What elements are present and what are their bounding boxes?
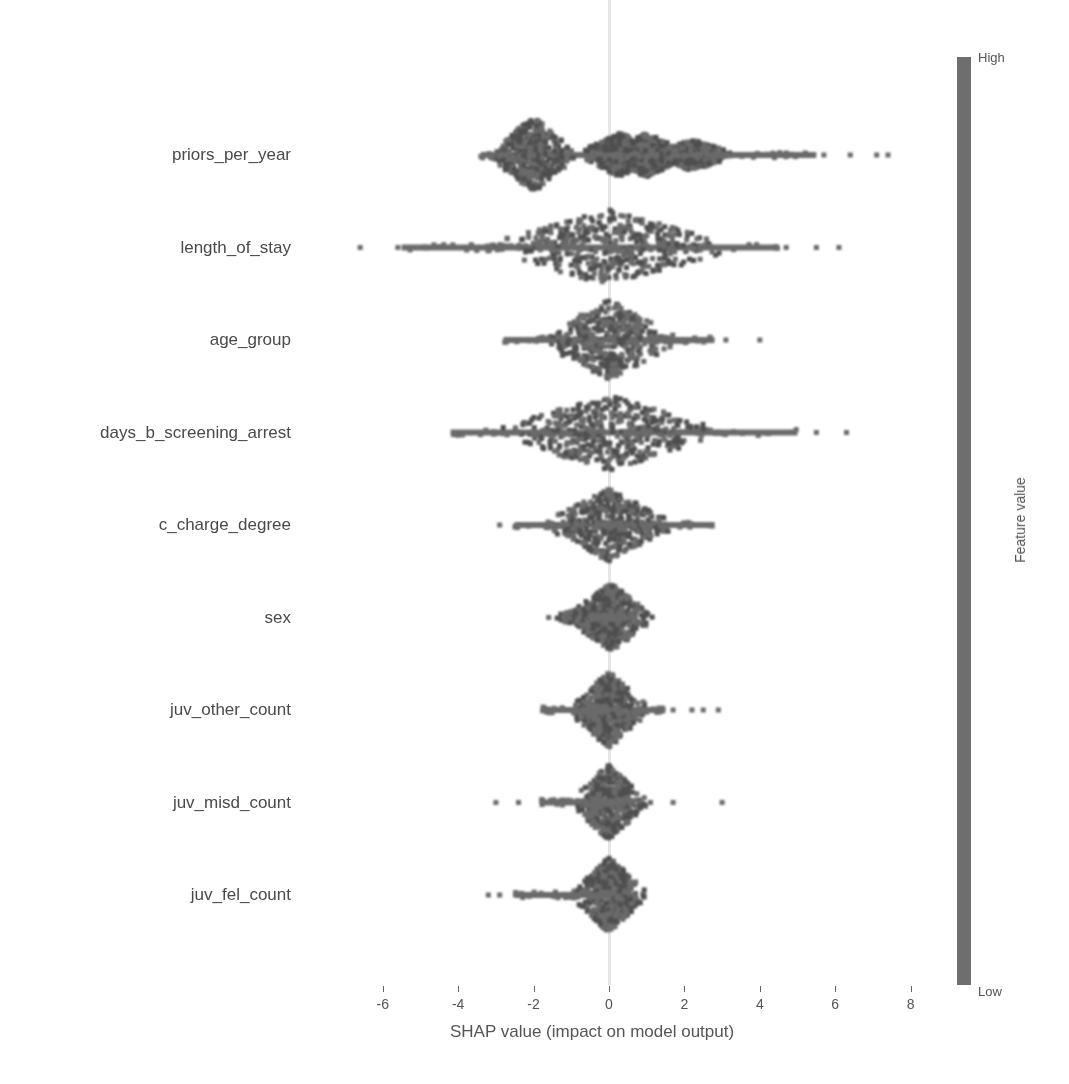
x-tick-mark xyxy=(835,986,836,992)
x-tick-mark xyxy=(458,986,459,992)
feature-label: length_of_stay xyxy=(180,238,291,258)
x-tick-mark xyxy=(534,986,535,992)
x-tick-mark xyxy=(911,986,912,992)
feature-label: days_b_screening_arrest xyxy=(100,423,291,443)
x-tick-label: 6 xyxy=(831,996,839,1012)
x-tick-label: -6 xyxy=(377,996,389,1012)
x-tick-mark xyxy=(383,986,384,992)
feature-label: juv_fel_count xyxy=(191,885,291,905)
feature-label: c_charge_degree xyxy=(159,515,291,535)
feature-label: juv_other_count xyxy=(170,700,291,720)
x-tick-label: 4 xyxy=(756,996,764,1012)
beeswarm-plot-area xyxy=(0,0,1069,1084)
x-tick-label: -4 xyxy=(452,996,464,1012)
x-tick-label: 8 xyxy=(907,996,915,1012)
feature-value-colorbar xyxy=(957,57,971,985)
x-tick-label: 0 xyxy=(605,996,613,1012)
colorbar-high-label: High xyxy=(978,50,1005,65)
shap-summary-plot: priors_per_yearlength_of_stayage_groupda… xyxy=(0,0,1069,1084)
x-tick-label: 2 xyxy=(680,996,688,1012)
feature-label: priors_per_year xyxy=(172,145,291,165)
colorbar-low-label: Low xyxy=(978,984,1002,999)
colorbar-title: Feature value xyxy=(1012,477,1028,563)
x-tick-mark xyxy=(684,986,685,992)
x-axis-label: SHAP value (impact on model output) xyxy=(450,1022,734,1042)
x-tick-mark xyxy=(760,986,761,992)
x-tick-label: -2 xyxy=(527,996,539,1012)
feature-label: age_group xyxy=(210,330,291,350)
x-tick-mark xyxy=(609,986,610,992)
feature-label: juv_misd_count xyxy=(173,793,291,813)
feature-label: sex xyxy=(265,608,291,628)
